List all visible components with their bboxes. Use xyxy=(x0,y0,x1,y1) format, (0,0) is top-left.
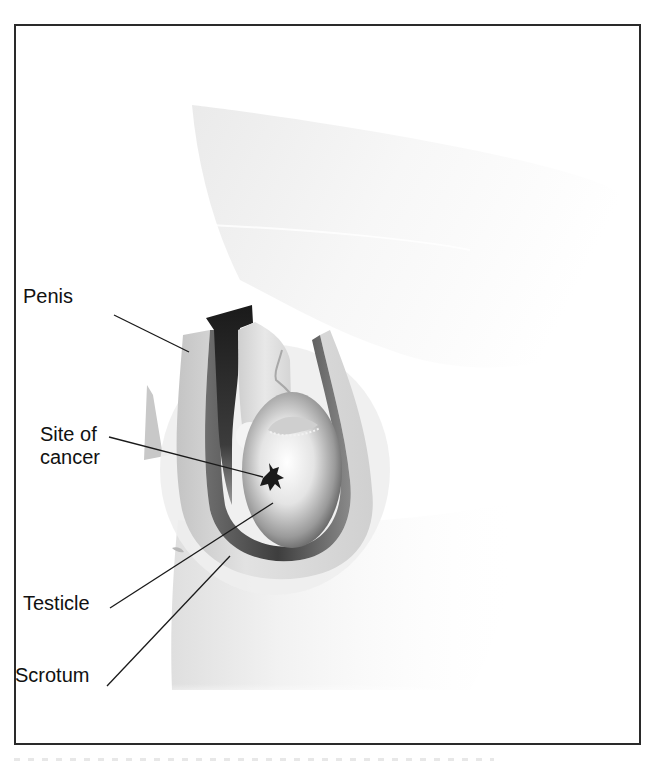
label-scrotum: Scrotum xyxy=(15,664,89,687)
label-site-line2: cancer xyxy=(40,446,100,469)
anatomy-illustration xyxy=(0,0,651,769)
label-penis: Penis xyxy=(23,285,73,308)
label-testicle: Testicle xyxy=(23,592,90,615)
label-site-of-cancer: Site of cancer xyxy=(40,423,100,469)
label-site-line1: Site of xyxy=(40,423,100,446)
caption-artifact xyxy=(14,758,494,761)
